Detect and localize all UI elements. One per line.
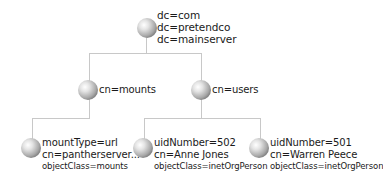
- connector-users-down: [201, 99, 202, 118]
- mount-cn-text: cn=pantherserver...: [42, 149, 140, 161]
- connector-to-warren: [260, 118, 261, 139]
- users-node-label: cn=users: [212, 84, 258, 96]
- root-dc-com: dc=com: [157, 9, 236, 21]
- users-node-sphere: [191, 80, 211, 100]
- mount-leaf-label: mountType=url cn=pantherserver... object…: [42, 137, 140, 172]
- users-label-text: cn=users: [212, 84, 258, 96]
- warren-objectclass-text: objectClass=inetOrgPerson: [270, 161, 383, 172]
- connector-to-mounts: [89, 53, 90, 81]
- root-node-sphere: [137, 18, 157, 38]
- mounts-node-label: cn=mounts: [99, 84, 156, 96]
- root-node-label: dc=com dc=pretendco dc=mainserver: [157, 9, 236, 45]
- connector-to-users: [201, 53, 202, 81]
- connector-root-down: [146, 38, 147, 53]
- mount-type-text: mountType=url: [42, 137, 140, 149]
- connector-mounts-down: [89, 99, 90, 118]
- mount-leaf-sphere: [21, 138, 41, 158]
- mounts-label-text: cn=mounts: [99, 84, 156, 96]
- anne-objectclass-text: objectClass=inetOrgPerson: [154, 161, 267, 172]
- connector-to-mount-leaf: [32, 118, 33, 139]
- root-dc-pretendco: dc=pretendco: [157, 21, 236, 33]
- warren-leaf-sphere: [249, 138, 269, 158]
- mount-objectclass-text: objectClass=mounts: [42, 161, 140, 172]
- warren-cn-text: cn=Warren Peece: [270, 149, 383, 161]
- connector-level1-horizontal: [89, 53, 202, 54]
- mounts-node-sphere: [78, 80, 98, 100]
- connector-mounts-horizontal: [32, 118, 90, 119]
- warren-uid-text: uidNumber=501: [270, 137, 383, 149]
- connector-users-horizontal: [144, 118, 261, 119]
- anne-leaf-sphere: [133, 138, 153, 158]
- connector-to-anne: [144, 118, 145, 139]
- warren-leaf-label: uidNumber=501 cn=Warren Peece objectClas…: [270, 137, 383, 172]
- root-dc-mainserver: dc=mainserver: [157, 33, 236, 45]
